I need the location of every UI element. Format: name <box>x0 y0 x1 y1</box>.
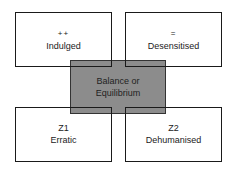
quadrant-desensitised: = Desensitised <box>125 12 222 67</box>
quadrant-symbol: ++ <box>58 28 69 40</box>
quadrant-symbol: Z2 <box>168 122 179 134</box>
quadrant-erratic: Z1 Erratic <box>15 107 112 162</box>
quadrant-label: Indulged <box>46 40 81 52</box>
quadrant-dehumanised: Z2 Dehumanised <box>125 107 222 162</box>
center-label-line2: Equilibrium <box>96 87 141 99</box>
quadrant-indulged: ++ Indulged <box>15 12 112 67</box>
quadrant-label: Desensitised <box>148 40 200 52</box>
quadrant-label: Erratic <box>50 134 76 146</box>
quadrant-symbol: Z1 <box>58 122 69 134</box>
quadrant-symbol: = <box>171 28 177 40</box>
center-label-line1: Balance or <box>96 75 139 87</box>
quadrant-label: Dehumanised <box>146 134 202 146</box>
center-balance-box: Balance or Equilibrium <box>70 60 166 114</box>
